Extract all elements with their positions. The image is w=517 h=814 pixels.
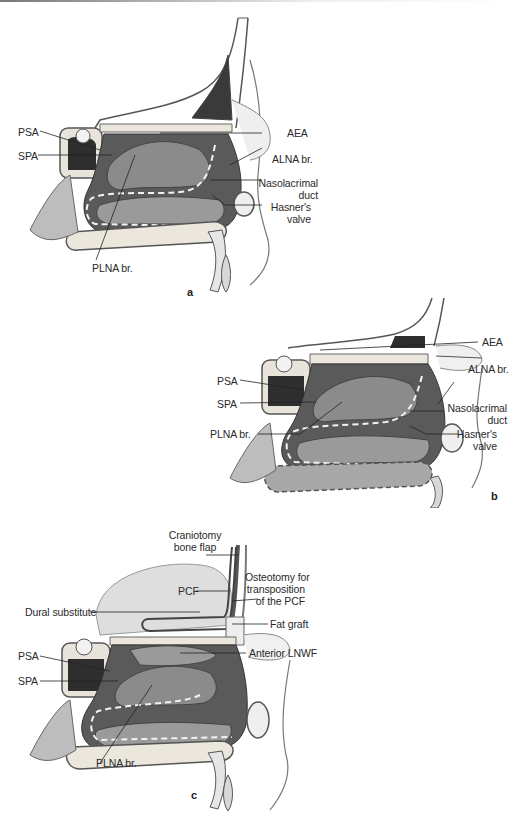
label-psa: PSA xyxy=(18,126,39,138)
panel-a: PSA SPA PLNA br. AEA ALNA br. Nasolacrim… xyxy=(0,0,320,300)
nasal-cavity-illustration-c xyxy=(0,525,340,814)
label-plna: PLNA br. xyxy=(210,428,251,440)
label-fat-graft: Fat graft xyxy=(270,618,308,630)
label-hasners-line2: valve xyxy=(258,213,311,225)
label-dural-substitute: Dural substitute xyxy=(25,606,96,618)
label-hasners-line1: Hasner's xyxy=(445,428,497,440)
label-hasners-line2: valve xyxy=(445,440,497,452)
panel-letter-c: c xyxy=(191,789,197,801)
label-aea: AEA xyxy=(287,127,308,139)
label-alna: ALNA br. xyxy=(272,153,313,165)
label-spa: SPA xyxy=(217,398,237,410)
label-plna: PLNA br. xyxy=(92,262,133,274)
label-spa: SPA xyxy=(18,675,38,687)
panel-letter-b: b xyxy=(491,490,498,502)
label-nasolacrimal-line2: duct xyxy=(445,414,507,426)
label-osteotomy-line1: Osteotomy for xyxy=(245,571,305,583)
label-aea: AEA xyxy=(482,336,503,348)
label-craniotomy-line2: bone flap xyxy=(160,541,230,553)
label-nasolacrimal: Nasolacrimal duct xyxy=(258,177,318,201)
label-nasolacrimal-line1: Nasolacrimal xyxy=(445,402,507,414)
label-hasners-valve: Hasner's valve xyxy=(445,428,497,452)
label-spa: SPA xyxy=(18,150,38,162)
panel-c: Craniotomy bone flap PCF Osteotomy for t… xyxy=(0,525,340,814)
label-osteotomy-line2: transposition xyxy=(245,583,305,595)
label-psa: PSA xyxy=(18,650,39,662)
label-craniotomy-line1: Craniotomy xyxy=(160,529,230,541)
panel-letter-a: a xyxy=(187,286,193,298)
label-pcf: PCF xyxy=(178,585,199,597)
label-nasolacrimal-line1: Nasolacrimal xyxy=(258,177,318,189)
label-osteotomy-line3: of the PCF xyxy=(245,595,305,607)
nasal-cavity-illustration-a xyxy=(0,0,320,300)
label-hasners-line1: Hasner's xyxy=(258,201,311,213)
label-anterior-lnwf: Anterior LNWF xyxy=(249,647,317,659)
label-hasners-valve: Hasner's valve xyxy=(258,201,311,225)
label-osteotomy: Osteotomy for transposition of the PCF xyxy=(245,571,305,607)
label-craniotomy-bone-flap: Craniotomy bone flap xyxy=(160,529,230,553)
label-alna: ALNA br. xyxy=(468,363,509,375)
label-psa: PSA xyxy=(217,375,238,387)
label-nasolacrimal: Nasolacrimal duct xyxy=(445,402,507,426)
label-nasolacrimal-line2: duct xyxy=(258,189,318,201)
label-plna: PLNA br. xyxy=(96,757,137,769)
panel-b: AEA ALNA br. PSA SPA PLNA br. Nasolacrim… xyxy=(200,298,517,508)
